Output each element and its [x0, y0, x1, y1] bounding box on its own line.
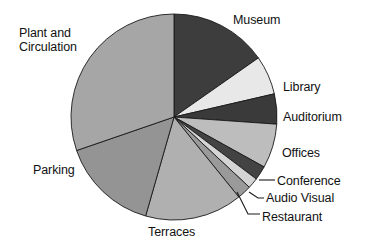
slice-label-restaurant: Restaurant [262, 211, 322, 225]
slice-label-terraces: Terraces [148, 226, 195, 240]
pie-chart-figure: Museum Library Auditorium Offices Confer… [0, 0, 367, 250]
slice-label-library: Library [283, 81, 321, 95]
slice-label-auditorium: Auditorium [283, 111, 342, 125]
slice-label-audio-visual: Audio Visual [266, 192, 334, 206]
slice-label-plant-line1: Plant and [19, 26, 71, 40]
slice-label-offices: Offices [282, 147, 320, 161]
slice-label-conference: Conference [277, 175, 341, 189]
slice-label-museum: Museum [233, 14, 280, 28]
slice-label-plant-line2: Circulation [19, 40, 77, 54]
slice-label-plant-and-circulation: Plant andCirculation [19, 26, 77, 54]
pie-slices-group [71, 14, 277, 220]
slice-label-parking: Parking [33, 164, 75, 178]
leader-line-audio-visual [249, 192, 264, 198]
